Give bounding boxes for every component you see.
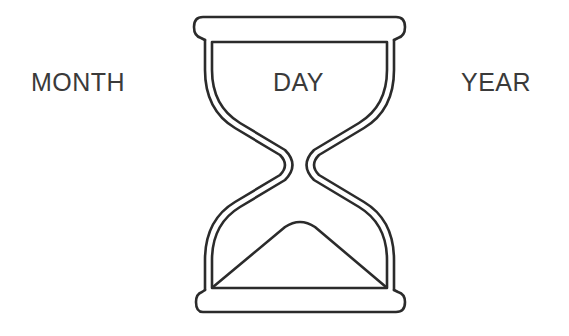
year-label: YEAR	[461, 70, 531, 95]
month-label: MONTH	[31, 70, 125, 95]
hourglass-bottom-cap	[196, 290, 405, 312]
hourglass-top-cap	[194, 17, 405, 40]
hourglass-diagram: MONTH DAY YEAR	[0, 0, 569, 336]
day-label: DAY	[273, 70, 324, 95]
hourglass-sand	[213, 222, 386, 287]
hourglass-icon	[0, 0, 569, 336]
